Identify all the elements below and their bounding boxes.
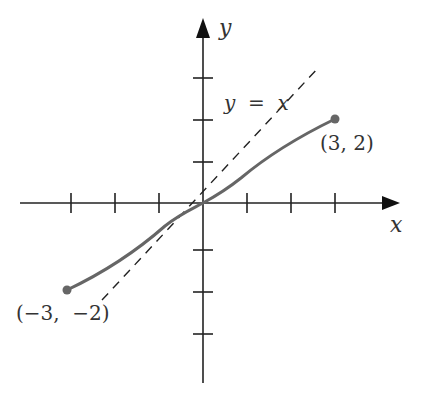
endpoint-left-label: (−3, −2) [16, 301, 110, 325]
line-equation-label: y = x [223, 91, 289, 115]
x-axis-arrow-icon [382, 196, 400, 210]
y-axis-arrow-icon [196, 18, 210, 38]
x-axis [20, 193, 400, 213]
y-axis-label: y [218, 15, 232, 40]
endpoint-right-label: (3, 2) [320, 131, 374, 155]
x-axis-label: x [390, 212, 403, 237]
function-curve [67, 119, 335, 290]
endpoint-right [331, 115, 340, 124]
function-graph: y x y = x (3, 2) (−3, −2) [0, 0, 423, 393]
endpoint-left [63, 286, 72, 295]
